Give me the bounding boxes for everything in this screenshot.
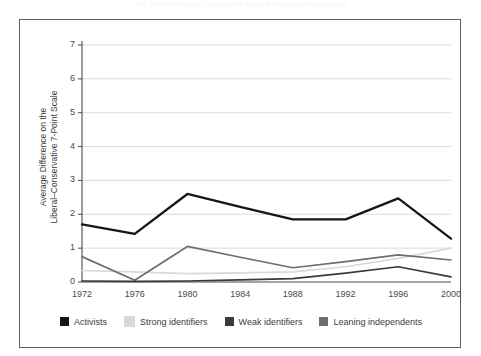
line-chart-plot — [20, 20, 462, 349]
legend-swatch-icon — [124, 316, 135, 327]
chart-legend: ActivistsStrong identifiersWeak identifi… — [20, 316, 462, 327]
x-tick-label: 1996 — [382, 289, 414, 299]
legend-label: Leaning independents — [333, 317, 422, 327]
legend-swatch-icon — [60, 317, 69, 326]
x-tick-label: 1988 — [277, 289, 309, 299]
y-tick-label: 2 — [65, 208, 75, 218]
axes — [82, 41, 451, 282]
x-tick-label: 1984 — [224, 289, 256, 299]
x-tick-label: 1992 — [330, 289, 362, 299]
x-tick-label: 2000 — [435, 289, 467, 299]
y-tick-marks — [78, 45, 82, 282]
series-line — [82, 194, 451, 239]
y-tick-label: 7 — [65, 39, 75, 49]
legend-swatch-icon — [225, 317, 234, 326]
x-tick-label: 1980 — [171, 289, 203, 299]
series-line — [82, 246, 451, 280]
figure-frame: Average Difference on the Liberal–Conser… — [19, 19, 461, 348]
legend-label: Weak identifiers — [239, 317, 303, 327]
legend-label: Strong identifiers — [140, 317, 208, 327]
y-tick-label: 0 — [65, 276, 75, 286]
data-series-group — [82, 194, 451, 281]
x-tick-label: 1976 — [119, 289, 151, 299]
series-line — [82, 248, 451, 273]
y-tick-label: 6 — [65, 73, 75, 83]
y-tick-label: 3 — [65, 174, 75, 184]
figure-caption: The 7-Point Liberal-Conservative Scale b… — [0, 1, 481, 8]
y-tick-label: 4 — [65, 141, 75, 151]
legend-label: Activists — [74, 317, 107, 327]
legend-item: Strong identifiers — [124, 316, 208, 327]
y-tick-label: 1 — [65, 242, 75, 252]
x-tick-label: 1972 — [66, 289, 98, 299]
legend-item: Leaning independents — [319, 317, 422, 327]
gridlines — [82, 45, 451, 248]
y-tick-label: 5 — [65, 107, 75, 117]
legend-item: Weak identifiers — [225, 317, 303, 327]
legend-item: Activists — [60, 317, 107, 327]
legend-swatch-icon — [319, 317, 328, 326]
